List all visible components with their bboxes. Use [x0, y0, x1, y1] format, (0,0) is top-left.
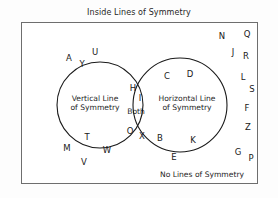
venn-circles [21, 22, 258, 184]
right-set-label: Horizontal Line of Symmetry [158, 94, 215, 113]
letter-f-outside: F [245, 104, 250, 113]
letter-g-outside: G [235, 148, 242, 157]
letter-r-outside: R [243, 52, 249, 61]
letter-d-right: D [187, 70, 194, 79]
letter-x-intersection: X [139, 132, 145, 141]
letter-p-outside: P [248, 154, 253, 163]
letter-y-left: Y [79, 60, 84, 69]
letter-a-left: A [66, 54, 72, 63]
venn-diagram-page: Inside Lines of Symmetry Vertical Line o… [0, 0, 278, 198]
letter-j-outside: J [232, 48, 235, 57]
right-set-label-line2: of Symmetry [158, 103, 215, 112]
inside-lines-of-symmetry-title: Inside Lines of Symmetry [0, 8, 278, 17]
letter-m-left: M [63, 144, 70, 153]
letter-u-left: U [92, 48, 98, 57]
letter-k-right: K [190, 136, 196, 145]
letter-i-intersection: I [139, 94, 142, 103]
letter-b-right: B [157, 134, 163, 143]
letter-s-outside: S [249, 85, 254, 94]
letter-l-outside: L [241, 73, 246, 82]
letter-n-outside: N [219, 32, 225, 41]
letter-z-outside: Z [245, 123, 251, 132]
left-set-label: Vertical Line of Symmetry [70, 94, 119, 113]
intersection-label: Both [127, 108, 145, 116]
letter-v-left: V [81, 158, 87, 167]
letter-h-intersection: H [130, 84, 136, 93]
right-set-label-line1: Horizontal Line [158, 94, 215, 103]
letter-o-intersection: O [127, 127, 134, 136]
no-lines-of-symmetry-caption: No Lines of Symmetry [160, 170, 244, 179]
left-set-label-line1: Vertical Line [70, 94, 119, 103]
letter-c-right: C [164, 72, 170, 81]
letter-q-outside: Q [244, 30, 251, 39]
letter-e-right: E [171, 153, 176, 162]
left-set-label-line2: of Symmetry [70, 103, 119, 112]
letter-t-left: T [84, 133, 89, 142]
letter-w-left: W [103, 146, 111, 155]
